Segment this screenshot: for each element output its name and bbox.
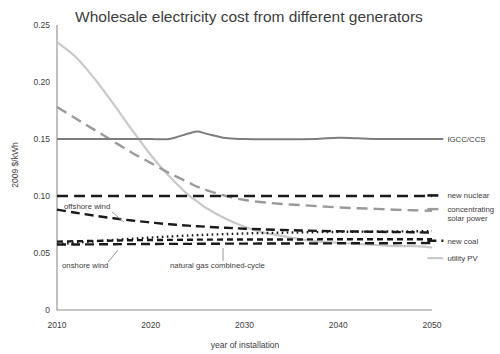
annotation-natural-gas-combined-cycle: natural gas combined-cycle xyxy=(170,261,265,270)
series-line-igcc-ccs xyxy=(57,132,432,140)
series-lines xyxy=(57,42,432,247)
y-axis-ticks: 00.050.100.150.200.25 xyxy=(33,20,50,315)
y-tick-label: 0.10 xyxy=(33,191,50,201)
y-tick-label: 0.20 xyxy=(33,77,50,87)
x-tick-label: 2010 xyxy=(48,320,67,330)
chart-annotations: offshore windonshore windnatural gas com… xyxy=(62,202,265,270)
series-line-natural-gas-combined-cycle xyxy=(57,231,432,244)
chart-container: Wholesale electricity cost from differen… xyxy=(0,0,500,354)
x-tick-label: 2040 xyxy=(329,320,348,330)
series-label-concentrating-solar-power: concentrating xyxy=(447,205,494,214)
annotation-leader-offshore-wind xyxy=(112,212,124,222)
series-line-utility-pv xyxy=(57,42,432,247)
series-label-utility-pv: utility PV xyxy=(447,254,478,263)
annotation-offshore-wind: offshore wind xyxy=(64,202,110,211)
x-tick-label: 2030 xyxy=(235,320,254,330)
x-axis-label: year of installation xyxy=(211,340,280,350)
chart-title: Wholesale electricity cost from differen… xyxy=(75,8,423,25)
series-label-new-coal: new coal xyxy=(447,237,478,246)
series-label-concentrating-solar-power: solar power xyxy=(447,214,488,223)
y-tick-label: 0.25 xyxy=(33,20,50,30)
y-axis-label: 2009 $/kWh xyxy=(10,142,20,188)
y-tick-label: 0.05 xyxy=(33,248,50,258)
annotation-onshore-wind: onshore wind xyxy=(62,261,108,270)
wholesale-electricity-cost-chart: Wholesale electricity cost from differen… xyxy=(0,0,500,354)
series-label-igcc-ccs: IGCC/CCS xyxy=(447,135,485,144)
x-tick-label: 2020 xyxy=(141,320,160,330)
y-tick-label: 0.15 xyxy=(33,134,50,144)
x-axis-ticks: 20102020203020402050 xyxy=(48,320,442,330)
x-tick-label: 2050 xyxy=(423,320,442,330)
y-tick-label: 0 xyxy=(45,305,50,315)
annotation-leader-onshore-wind xyxy=(108,250,118,262)
series-labels: utility PVconcentratingsolar powerIGCC/C… xyxy=(427,135,494,263)
series-label-new-nuclear: new nuclear xyxy=(447,191,489,200)
